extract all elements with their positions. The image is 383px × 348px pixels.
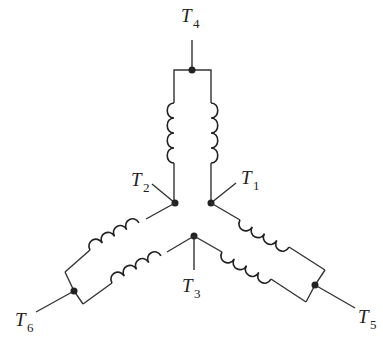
svg-text:3: 3 [194, 286, 201, 301]
wire [211, 203, 240, 220]
inductor-coil-icon [86, 216, 139, 250]
junction-dot [312, 282, 319, 289]
inductor-coil-icon [218, 252, 271, 286]
center-terminals [152, 183, 236, 270]
svg-text:4: 4 [193, 16, 200, 31]
junction-dot [71, 288, 78, 295]
terminal-label-t6: T 6 [15, 309, 34, 335]
wire [83, 283, 112, 304]
inductor-coil-icon [167, 103, 174, 163]
wire [194, 236, 222, 252]
wire [65, 250, 90, 272]
lower-left-winding-pair [36, 203, 194, 312]
terminal-label-t5: T 5 [358, 306, 377, 332]
wire [146, 203, 175, 219]
svg-text:1: 1 [253, 178, 260, 193]
svg-text:2: 2 [143, 180, 150, 195]
svg-text:T: T [181, 5, 193, 26]
terminal-label-t3: T 3 [182, 275, 201, 301]
wire [271, 279, 306, 302]
svg-text:T: T [15, 309, 27, 330]
t6-lead [36, 291, 74, 312]
svg-text:5: 5 [370, 317, 377, 332]
wire [289, 247, 325, 270]
top-winding-pair [167, 40, 218, 203]
svg-text:T: T [131, 169, 143, 190]
terminal-label-t4: T 4 [181, 5, 200, 31]
t2-lead [152, 184, 175, 203]
t5-lead [315, 285, 355, 308]
junction-dot [189, 67, 196, 74]
svg-text:T: T [182, 275, 194, 296]
svg-text:T: T [358, 306, 370, 327]
wye-winding-diagram: T 4 T 2 T 1 T 3 T 6 T 5 [0, 0, 383, 348]
top-bridge [174, 70, 211, 103]
inductor-coil-icon [108, 249, 161, 283]
svg-text:6: 6 [27, 320, 34, 335]
terminal-label-t1: T 1 [241, 167, 260, 193]
t1-lead [211, 183, 236, 203]
inductor-coil-icon [236, 220, 289, 254]
lower-right-winding-pair [194, 203, 355, 308]
svg-text:T: T [241, 167, 253, 188]
wire [167, 236, 194, 252]
terminal-label-t2: T 2 [131, 169, 150, 195]
inductor-coil-icon [211, 103, 218, 163]
